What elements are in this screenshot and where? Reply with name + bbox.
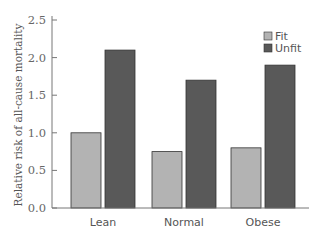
y-tick-label: 1.0 <box>28 126 46 140</box>
x-tick-label: Obese <box>246 216 281 229</box>
bar-fit-obese <box>231 148 261 208</box>
bar-chart: 0.00.51.01.52.02.5 LeanNormalObese FitUn… <box>0 0 324 236</box>
y-tick-label: 2.5 <box>28 13 46 27</box>
bar-fit-lean <box>71 133 101 208</box>
x-axis: LeanNormalObese <box>52 208 309 229</box>
x-tick-label: Lean <box>90 216 116 229</box>
y-tick-label: 0.5 <box>28 163 46 177</box>
y-axis: 0.00.51.01.52.02.5 <box>28 13 57 215</box>
y-tick-label: 2.0 <box>28 51 46 65</box>
bars <box>71 50 295 208</box>
bar-unfit-lean <box>105 50 135 208</box>
bar-unfit-normal <box>186 80 216 208</box>
y-tick-label: 0.0 <box>28 201 46 215</box>
y-axis-title: Relative risk of all-cause mortality <box>12 24 24 207</box>
x-tick-label: Normal <box>164 216 204 229</box>
y-tick-label: 1.5 <box>28 88 46 102</box>
bar-unfit-obese <box>265 65 295 208</box>
legend-label-unfit: Unfit <box>275 42 302 55</box>
bar-fit-normal <box>152 152 182 208</box>
legend-swatch-unfit <box>264 44 272 52</box>
legend-swatch-fit <box>264 32 272 40</box>
legend: FitUnfit <box>264 30 302 55</box>
